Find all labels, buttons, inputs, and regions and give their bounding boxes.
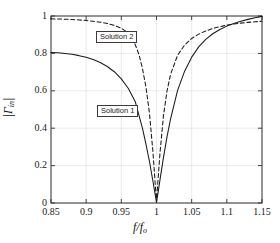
gridlines [51,16,262,203]
x-tick-label: 1.1 [207,207,247,217]
x-tick-label: 0.9 [66,207,106,217]
x-tick-label: 1 [137,207,177,217]
series-annotation-solution-2: Solution 2 [96,31,137,43]
x-tick-label: 0.85 [31,207,71,217]
x-tick-label: 1.05 [172,207,212,217]
y-tick-label: 0.2 [35,160,48,170]
y-axis-label: |Γin| [1,78,16,138]
y-tick-label: 0.8 [35,48,48,58]
y-tick-label: 1 [42,11,47,21]
x-tick-label: 0.95 [101,207,141,217]
x-axis-label: f/fo [0,220,280,235]
y-tick-label: 0.6 [35,85,48,95]
x-tick-label: 1.15 [242,207,280,217]
series-annotation-solution-1: Solution 1 [97,105,138,117]
chart-figure: 00.20.40.60.81 0.850.90.9511.051.11.15 |… [0,0,280,243]
y-tick-label: 0.4 [35,123,48,133]
